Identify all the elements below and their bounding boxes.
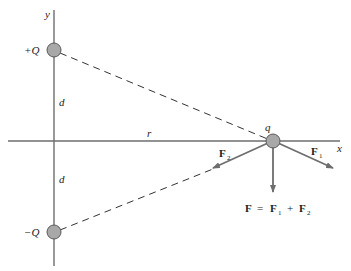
positive-charge (47, 43, 61, 57)
dashed-line-positive (60, 53, 270, 140)
dipole-diagram: y x +Q −Q q d d r F 2 F 1 F = F 1 + F 2 (0, 0, 351, 271)
force-f1-label: F (311, 145, 318, 157)
equation-plus: + (287, 202, 293, 214)
y-axis-label: y (44, 8, 50, 20)
force-f2-subscript: 2 (227, 154, 231, 162)
equation-term1: F (270, 202, 277, 214)
x-axis-label: x (336, 142, 342, 154)
equation-term2-subscript: 2 (307, 209, 311, 217)
dashed-line-negative (60, 169, 213, 230)
equation-lhs: F (245, 202, 252, 214)
force-f1-subscript: 1 (319, 152, 323, 160)
upper-distance-label: d (59, 96, 65, 108)
negative-charge-label: −Q (24, 226, 39, 238)
equation-term1-subscript: 1 (278, 209, 282, 217)
test-charge (266, 134, 280, 148)
test-charge-label: q (265, 121, 271, 133)
negative-charge (47, 225, 61, 239)
positive-charge-label: +Q (24, 44, 39, 56)
equation-equals: = (257, 202, 263, 214)
force-f1-arrow (278, 143, 333, 168)
lower-distance-label: d (59, 173, 65, 185)
force-f2-label: F (219, 147, 226, 159)
net-force-equation: F = F 1 + F 2 (245, 202, 311, 217)
separation-label: r (147, 127, 152, 139)
equation-term2: F (299, 202, 306, 214)
